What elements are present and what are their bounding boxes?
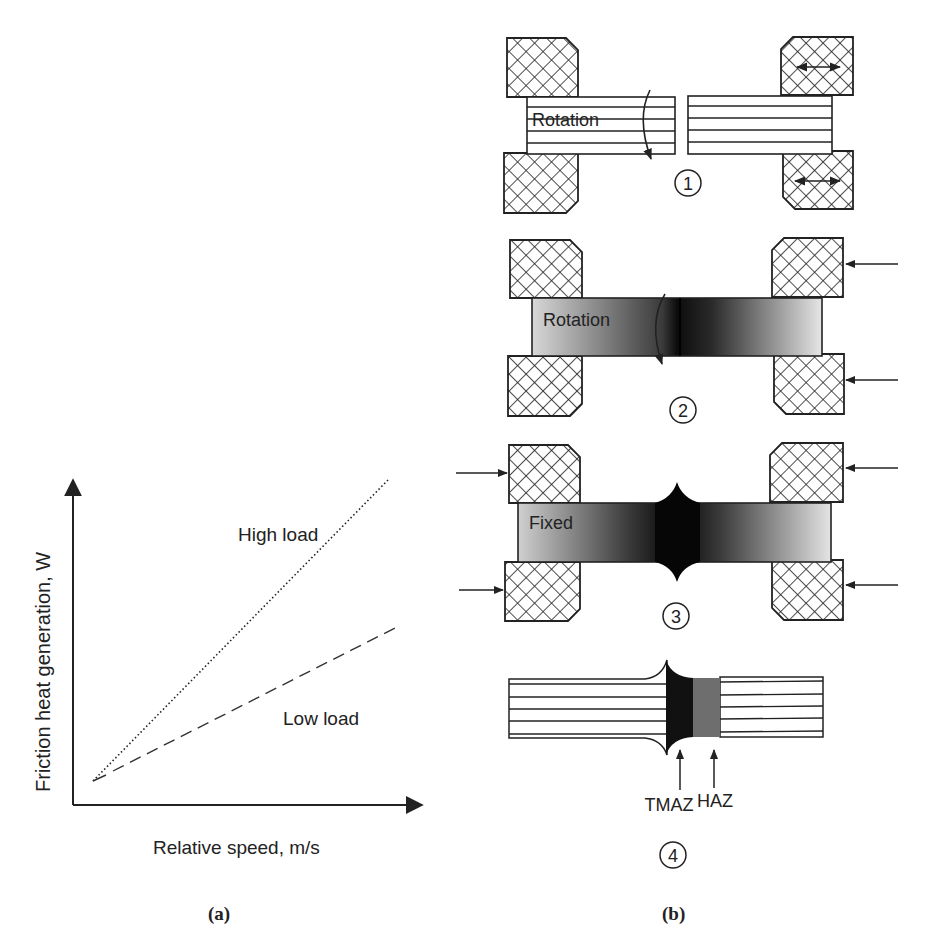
stage-2-number: 2	[678, 401, 688, 421]
clamp-top-right	[772, 238, 843, 297]
stage-1-label: Rotation	[532, 110, 599, 130]
low-load-line	[113, 628, 395, 771]
weld-flash	[655, 482, 700, 582]
workpiece-right	[688, 96, 832, 154]
panel-a-caption: (a)	[208, 903, 230, 925]
haz-zone	[693, 678, 720, 737]
clamp-bottom-right	[783, 151, 853, 209]
tmaz-zone	[666, 660, 693, 755]
low-load-line-start	[93, 775, 106, 781]
stage-3: Fixed 3	[456, 443, 898, 629]
stage-2-label: Rotation	[543, 310, 610, 330]
stage-1: Rotation 1	[504, 37, 853, 213]
clamp-top-left	[510, 240, 582, 298]
high-load-label: High load	[238, 524, 318, 545]
clamp-bottom-right	[772, 560, 843, 620]
clamp-top-right	[770, 443, 843, 502]
clamp-bottom-left	[505, 562, 580, 621]
clamp-bottom-left	[508, 356, 582, 416]
stage-1-number: 1	[683, 174, 693, 194]
stage-4: TMAZ HAZ 4	[509, 660, 823, 868]
stage-3-label: Fixed	[529, 513, 573, 533]
stage-4-number: 4	[668, 846, 678, 866]
panel-a-chart: High load Low load Relative speed, m/s F…	[32, 480, 422, 925]
y-axis-label: Friction heat generation, W	[32, 552, 54, 792]
clamp-top-left	[509, 445, 580, 503]
haz-label: HAZ	[697, 791, 733, 811]
clamp-bottom-right	[774, 354, 844, 414]
tmaz-label: TMAZ	[645, 795, 694, 815]
clamp-bottom-left	[504, 153, 578, 213]
figure-canvas: High load Low load Relative speed, m/s F…	[0, 0, 931, 949]
panel-b-caption: (b)	[662, 903, 685, 925]
x-axis-label: Relative speed, m/s	[153, 837, 320, 858]
clamp-top-right	[781, 37, 853, 95]
clamp-top-left	[507, 38, 578, 97]
low-load-label: Low load	[283, 708, 359, 729]
stage-2: Rotation 2	[508, 238, 898, 423]
stage-3-number: 3	[671, 607, 681, 627]
